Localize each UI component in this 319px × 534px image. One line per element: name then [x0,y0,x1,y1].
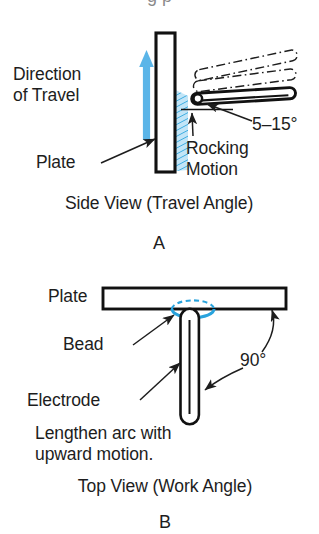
travel-angle-leader [207,104,252,121]
panel-b-identifier: B [159,512,171,533]
panel-a-identifier: A [153,233,165,254]
work-angle-value: 90° [240,350,266,370]
direction-of-travel-arrow [139,50,154,140]
electrode-label: Electrode [27,390,100,410]
plate-shape-b [103,288,286,309]
technique-note-line2: upward motion. [35,444,153,464]
bead-leader [133,315,174,345]
direction-of-travel-label-line2: of Travel [13,85,79,105]
travel-angle-value: 5–15° [252,114,297,134]
plate-label-b: Plate [48,286,87,306]
rocking-motion-label-line2: Motion [186,159,238,179]
technique-note-line1: Lengthen arc with [35,423,171,443]
rocking-motion-leader [192,113,193,136]
work-angle-leader-electrode [205,368,243,390]
direction-of-travel-label-line1: Direction [13,64,81,84]
rocking-motion-label-line1: Rocking [186,138,249,158]
work-angle-leader-plate [262,310,274,352]
panel-b-caption: Top View (Work Angle) [78,476,252,496]
bead-label: Bead [63,334,103,354]
plate-leader-a [101,139,155,163]
electrode-pivot-a [194,94,203,103]
electrode-leader [140,363,180,400]
plate-shape-a [156,33,175,172]
panel-a-caption: Side View (Travel Angle) [65,193,253,213]
welding-technique-figure: g p [0,0,319,534]
electrode-ghost-upper [195,50,297,80]
electrode-shape-b [181,309,199,424]
plate-label-a: Plate [36,152,75,172]
